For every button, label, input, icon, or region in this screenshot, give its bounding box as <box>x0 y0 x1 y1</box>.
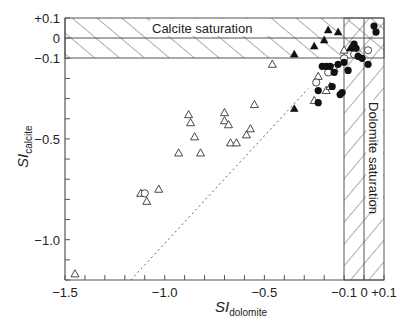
data-point-circle-filled <box>345 67 352 74</box>
one-to-one-reference-line <box>131 89 308 280</box>
x-tick-label: −0.5 <box>252 285 278 300</box>
x-axis-title-main: SI <box>215 298 229 315</box>
data-point-circle-filled <box>352 45 359 52</box>
y-axis-title: SIcalcite <box>14 125 34 168</box>
y-axis-title-main: SI <box>14 154 31 168</box>
data-point-triangle-open <box>71 270 79 277</box>
data-point-triangle-open <box>143 197 151 204</box>
data-point-circle-filled <box>341 59 348 66</box>
data-point-circle-filled <box>329 83 336 90</box>
data-point-triangle-open <box>185 111 193 118</box>
data-point-triangle-open <box>155 185 163 192</box>
y-tick-label: 0 <box>53 31 60 46</box>
data-point-circle-filled <box>315 87 322 94</box>
data-points <box>71 22 380 276</box>
data-point-triangle-filled <box>290 105 298 112</box>
data-point-triangle-open <box>232 139 240 146</box>
x-tick-label: 0 <box>360 285 367 300</box>
data-point-circle-filled <box>372 29 379 36</box>
x-tick-label: −1.5 <box>52 285 78 300</box>
data-point-circle-filled <box>315 99 322 106</box>
x-axis-title: SIdolomite <box>215 298 267 318</box>
data-point-circle-filled <box>327 63 334 70</box>
y-tick-label: +0.1 <box>34 11 60 26</box>
data-point-circle-open <box>364 47 371 54</box>
data-point-circle-filled <box>364 61 371 68</box>
data-point-triangle-open <box>314 72 322 79</box>
data-point-triangle-open <box>187 119 195 126</box>
y-axis-title-sub: calcite <box>23 125 34 154</box>
y-tick-label: −0.5 <box>34 132 60 147</box>
data-point-triangle-open <box>250 100 258 107</box>
data-point-circle-filled <box>331 69 338 76</box>
data-point-triangle-open <box>197 149 205 156</box>
data-point-circle-open <box>313 79 320 86</box>
data-point-circle-filled <box>358 55 365 62</box>
scatter-chart: Calcite saturation Dolomite saturation −… <box>0 0 413 329</box>
x-tick-label: −0.1 <box>331 285 357 300</box>
data-point-triangle-open <box>268 60 276 67</box>
y-tick-label: −0.1 <box>34 51 60 66</box>
dolomite-saturation-label: Dolomite saturation <box>366 102 381 214</box>
data-point-circle-filled <box>339 89 346 96</box>
calcite-saturation-label: Calcite saturation <box>152 21 252 36</box>
data-point-triangle-open <box>191 133 199 140</box>
x-tick-label: +0.1 <box>371 285 397 300</box>
y-tick-label: −1.0 <box>34 233 60 248</box>
data-point-triangle-open <box>246 125 254 132</box>
x-tick-label: −1.0 <box>152 285 178 300</box>
data-point-triangle-open <box>175 149 183 156</box>
data-point-circle-open <box>141 190 148 197</box>
x-axis-title-sub: dolomite <box>229 307 267 318</box>
data-point-triangle-open <box>221 109 229 116</box>
